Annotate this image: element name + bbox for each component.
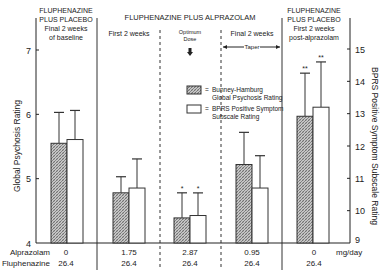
- significance-marker: *: [181, 185, 184, 192]
- right-tick-label: 10: [355, 206, 365, 216]
- phase-label: First 2 weeks: [293, 25, 335, 32]
- bar-global-psychosis: [51, 143, 67, 243]
- legend: =Bunney-HamburgGlobal Psychosis Rating=B…: [187, 86, 284, 121]
- fluphenazine-dose: 26.4: [121, 259, 137, 268]
- phase-label: Dose: [184, 36, 197, 42]
- bar-bprs: [67, 140, 83, 243]
- phase-headers: FLUPHENAZINE PLUS ALPRAZOLAMFLUPHENAZINE…: [39, 7, 341, 56]
- legend-label: Bunney-Hamburg: [212, 86, 263, 94]
- phase-label: FLUPHENAZINE: [287, 7, 341, 14]
- legend-dash: =: [205, 86, 209, 93]
- alprazolam-dose: 1.75: [121, 248, 137, 257]
- legend-label: Subscale Rating: [212, 113, 260, 121]
- bar-bprs: [313, 107, 329, 243]
- chart-canvas: 45679101112131415Global Psychosis Rating…: [0, 0, 388, 276]
- fluphenazine-dose: 26.4: [306, 259, 322, 268]
- bar-global-psychosis: [113, 193, 129, 243]
- left-tick-label: 4: [26, 239, 31, 249]
- fluphenazine-dose: 26.4: [244, 259, 260, 268]
- alprazolam-dose: 0: [64, 248, 69, 257]
- right-tick-label: 11: [355, 174, 364, 184]
- phase-label: Final 2 weeks: [45, 25, 88, 32]
- left-arrow-icon: [223, 45, 227, 49]
- chart: 45679101112131415Global Psychosis Rating…: [0, 0, 388, 276]
- bar-bprs: [190, 216, 206, 243]
- left-tick-label: 7: [26, 46, 31, 56]
- bar-global-psychosis: [174, 218, 190, 243]
- bar-bprs: [129, 188, 145, 243]
- dose-table: AlprazolamFluphenazine01.752.870.95026.4…: [2, 248, 362, 268]
- phase-label: Final 2 weeks: [231, 30, 274, 37]
- phase-label: FLUPHENAZINE: [39, 7, 93, 14]
- alprazolam-dose: 0: [312, 248, 317, 257]
- legend-label: Global Psychosis Rating: [212, 94, 283, 102]
- legend-swatch: [187, 86, 201, 94]
- right-axis-label: BPRS Positive Symptom Subscale Rating: [370, 67, 380, 225]
- right-tick-label: 12: [355, 142, 365, 152]
- phase-label: PLUS PLACEBO: [39, 16, 93, 23]
- right-tick-label: 14: [355, 77, 365, 87]
- legend-swatch: [187, 105, 201, 113]
- significance-marker: *: [197, 185, 200, 192]
- down-arrow-icon: [187, 48, 193, 56]
- phase-label: post-alprazolam: [289, 34, 339, 42]
- bar-global-psychosis: [236, 165, 252, 243]
- phase-label: Optimum: [179, 29, 202, 35]
- right-tick-label: 13: [355, 109, 365, 119]
- fluphenazine-dose: 26.4: [182, 259, 198, 268]
- unit-label: mg/day: [336, 248, 362, 257]
- left-axis-label: Global Psychosis Rating: [12, 100, 22, 192]
- right-tick-label: 15: [355, 45, 365, 55]
- left-tick-label: 6: [26, 110, 31, 120]
- significance-marker: **: [318, 54, 324, 61]
- group-header: FLUPHENAZINE PLUS ALPRAZOLAM: [125, 13, 256, 22]
- bars: ******: [51, 54, 329, 243]
- alprazolam-dose: 0.95: [244, 248, 260, 257]
- phase-label: First 2 weeks: [108, 30, 150, 37]
- row-label-fluphenazine: Fluphenazine: [2, 259, 51, 268]
- right-arrow-icon: [276, 45, 280, 49]
- phase-label: of baseline: [49, 34, 83, 41]
- legend-label: BPRS Positive Symptom: [212, 105, 284, 113]
- legend-dash: =: [205, 105, 209, 112]
- bar-global-psychosis: [297, 116, 313, 243]
- significance-marker: **: [302, 65, 308, 72]
- fluphenazine-dose: 26.4: [58, 259, 74, 268]
- taper-label: Taper: [244, 44, 259, 50]
- phase-label: PLUS PLACEBO: [287, 16, 341, 23]
- left-tick-label: 5: [26, 174, 31, 184]
- right-tick-label: 9: [355, 235, 360, 245]
- alprazolam-dose: 2.87: [182, 248, 198, 257]
- row-label-alprazolam: Alprazolam: [10, 248, 50, 257]
- bar-bprs: [252, 188, 268, 243]
